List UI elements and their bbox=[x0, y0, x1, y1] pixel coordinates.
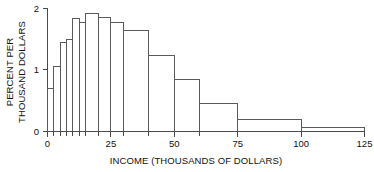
x-tick-label-50: 50 bbox=[169, 138, 180, 149]
y-tick-label-2: 2 bbox=[34, 3, 39, 14]
y-tick-label-0: 0 bbox=[34, 126, 39, 137]
histogram-bar bbox=[79, 22, 85, 132]
histogram-bar bbox=[48, 89, 54, 132]
x-axis: 0 25 50 75 100 125 bbox=[45, 132, 373, 150]
histogram-bar bbox=[67, 39, 73, 131]
histogram-bar bbox=[301, 128, 364, 132]
x-tick-label-125: 125 bbox=[357, 138, 373, 149]
x-tick-label-25: 25 bbox=[106, 138, 117, 149]
histogram-bar bbox=[174, 79, 199, 131]
histogram-bar bbox=[200, 103, 238, 131]
income-histogram-chart: PERCENT PER THOUSAND DOLLARS 2 1 0 bbox=[0, 0, 374, 172]
histogram-bar bbox=[124, 30, 149, 132]
y-axis: 2 1 0 bbox=[34, 3, 48, 137]
y-tick-label-1: 1 bbox=[34, 64, 39, 75]
y-axis-title-line-1: PERCENT PER bbox=[4, 38, 15, 107]
histogram-bars bbox=[48, 13, 365, 131]
histogram-bar bbox=[54, 67, 60, 132]
y-axis-title-line-2: THOUSAND DOLLARS bbox=[16, 21, 27, 123]
histogram-bar bbox=[73, 19, 79, 132]
histogram-figure: PERCENT PER THOUSAND DOLLARS 2 1 0 bbox=[0, 0, 374, 172]
histogram-bar bbox=[60, 42, 66, 131]
histogram-bar bbox=[98, 18, 111, 132]
x-tick-label-75: 75 bbox=[232, 138, 243, 149]
histogram-bar bbox=[111, 22, 124, 132]
y-axis-title: PERCENT PER THOUSAND DOLLARS bbox=[4, 21, 27, 123]
x-axis-title: INCOME (THOUSANDS OF DOLLARS) bbox=[110, 155, 282, 166]
x-tick-label-100: 100 bbox=[293, 138, 309, 149]
x-tick-label-0: 0 bbox=[45, 138, 50, 149]
histogram-bar bbox=[149, 56, 174, 132]
histogram-bar bbox=[86, 13, 99, 131]
histogram-bar bbox=[238, 119, 301, 131]
